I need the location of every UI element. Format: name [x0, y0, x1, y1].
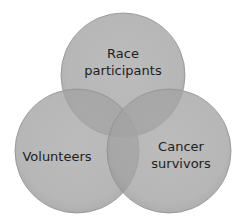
venn-diagram: Race participants Volunteers Cancer surv… — [0, 0, 244, 224]
label-race-participants: Race participants — [84, 45, 161, 79]
label-volunteers-line1: Volunteers — [22, 148, 91, 165]
label-cancer-survivors: Cancer survivors — [151, 138, 210, 172]
label-cancer-line2: survivors — [151, 155, 210, 172]
label-volunteers: Volunteers — [22, 148, 91, 165]
label-cancer-line1: Cancer — [151, 138, 210, 155]
label-race-line1: Race — [84, 45, 161, 62]
label-race-line2: participants — [84, 62, 161, 79]
venn-svg — [0, 0, 244, 224]
